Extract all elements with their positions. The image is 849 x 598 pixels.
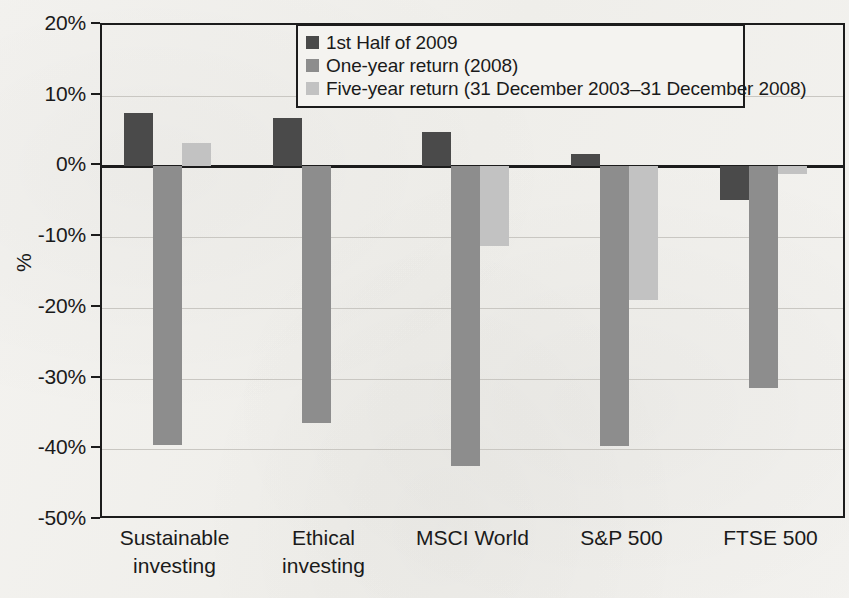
y-axis-tick-mark [91, 234, 100, 236]
bar [422, 132, 451, 166]
bar [182, 143, 211, 166]
x-axis-category-label: MSCI World [398, 524, 547, 552]
bar [629, 166, 658, 300]
bar [124, 113, 153, 167]
bar [749, 166, 778, 387]
bar [273, 118, 302, 166]
y-axis-tick-label: -50% [38, 506, 86, 530]
legend: 1st Half of 2009One-year return (2008)Fi… [296, 24, 745, 108]
y-axis-tick-mark [91, 305, 100, 307]
x-axis-category-line: MSCI World [398, 524, 547, 552]
y-axis-tick-mark [91, 446, 100, 448]
x-axis: SustainableinvestingEthicalinvestingMSCI… [100, 524, 845, 598]
y-axis-tick-label: -10% [38, 223, 86, 247]
x-axis-category-line: investing [249, 552, 398, 580]
legend-item: Five-year return (31 December 2003–31 De… [306, 77, 735, 100]
y-axis-tick-mark [91, 163, 100, 165]
x-axis-category-label: Ethicalinvesting [249, 524, 398, 580]
bar [153, 166, 182, 445]
y-axis-tick-label: -40% [38, 435, 86, 459]
legend-swatch-icon [306, 59, 319, 72]
y-axis-tick-label: -30% [38, 365, 86, 389]
legend-item-label: One-year return (2008) [326, 55, 518, 77]
y-axis-tick-mark [91, 376, 100, 378]
bar [778, 166, 807, 174]
bar [720, 166, 749, 200]
x-axis-category-label: Sustainableinvesting [100, 524, 249, 580]
legend-swatch-icon [306, 36, 319, 49]
bar [451, 166, 480, 465]
y-axis-tick-label: 20% [45, 11, 86, 35]
bar [571, 154, 600, 166]
y-axis-tick-mark [91, 22, 100, 24]
bar [600, 166, 629, 445]
x-axis-category-line: investing [100, 552, 249, 580]
y-axis-tick-label: 10% [45, 82, 86, 106]
x-axis-category-line: Ethical [249, 524, 398, 552]
legend-item-label: 1st Half of 2009 [326, 32, 457, 54]
y-axis-title: % [12, 253, 36, 272]
y-axis: 20%10%0%-10%-20%-30%-40%-50% [0, 0, 92, 598]
legend-item: One-year return (2008) [306, 54, 735, 77]
x-axis-category-line: S&P 500 [547, 524, 696, 552]
bar [480, 166, 509, 246]
y-axis-tick-label: -20% [38, 294, 86, 318]
x-axis-category-label: S&P 500 [547, 524, 696, 552]
y-axis-tick-mark [91, 93, 100, 95]
x-axis-category-line: Sustainable [100, 524, 249, 552]
legend-item-label: Five-year return (31 December 2003–31 De… [326, 78, 807, 100]
bar [302, 166, 331, 423]
y-axis-tick-label: 0% [56, 152, 86, 176]
y-axis-tick-mark [91, 517, 100, 519]
x-axis-category-line: FTSE 500 [696, 524, 845, 552]
x-axis-category-label: FTSE 500 [696, 524, 845, 552]
legend-item: 1st Half of 2009 [306, 31, 735, 54]
legend-swatch-icon [306, 82, 319, 95]
bar-chart: 20%10%0%-10%-20%-30%-40%-50% % 1st Half … [0, 0, 849, 598]
